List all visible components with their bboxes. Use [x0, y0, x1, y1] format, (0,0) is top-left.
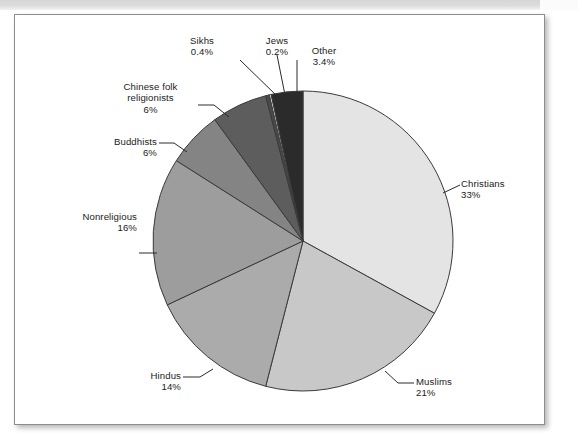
pie-label-muslims-name: Muslims [416, 376, 452, 387]
leader-line-hindus [183, 369, 213, 377]
pie-label-jews-value: 0.2% [250, 46, 304, 57]
pie-label-christians-name: Christians [461, 178, 505, 189]
leader-line-jews [277, 55, 285, 95]
pie-slice-group [153, 91, 453, 391]
pie-label-nonreligious-name: Nonreligious [52, 211, 137, 222]
leader-line-muslims [385, 371, 414, 383]
pie-label-jews: Jews 0.2% [250, 35, 304, 58]
pie-label-jews-name: Jews [250, 35, 304, 46]
pie-label-sikhs: Sikhs 0.4% [174, 35, 230, 58]
pie-chart: Christians 33% Muslims 21% Hindus 14% No… [0, 0, 578, 440]
pie-label-christians: Christians 33% [461, 178, 505, 201]
pie-label-nonreligious: Nonreligious 16% [52, 211, 137, 234]
pie-label-buddhists-value: 6% [83, 147, 157, 158]
pie-label-other: Other 3.4% [297, 45, 351, 68]
pie-label-chinese-folk-value: 6% [104, 104, 197, 115]
pie-label-other-value: 3.4% [297, 56, 351, 67]
leader-line-sikhs [240, 60, 279, 98]
pie-label-chinese-folk: Chinese folk religionists 6% [104, 81, 197, 115]
pie-label-hindus-name: Hindus [109, 370, 181, 381]
pie-label-hindus-value: 14% [109, 381, 181, 392]
pie-label-hindus: Hindus 14% [109, 370, 181, 393]
pie-label-buddhists: Buddhists 6% [83, 136, 157, 159]
pie-label-buddhists-name: Buddhists [83, 136, 157, 147]
pie-label-sikhs-name: Sikhs [174, 35, 230, 46]
pie-label-nonreligious-value: 16% [52, 222, 137, 233]
pie-label-chinese-folk-line2: religionists [104, 92, 197, 103]
pie-label-christians-value: 33% [461, 189, 505, 200]
leader-line-christians [443, 185, 460, 193]
pie-label-chinese-folk-line1: Chinese folk [104, 81, 197, 92]
pie-label-sikhs-value: 0.4% [174, 46, 230, 57]
pie-label-muslims-value: 21% [416, 387, 452, 398]
pie-label-muslims: Muslims 21% [416, 376, 452, 399]
pie-label-other-name: Other [297, 45, 351, 56]
